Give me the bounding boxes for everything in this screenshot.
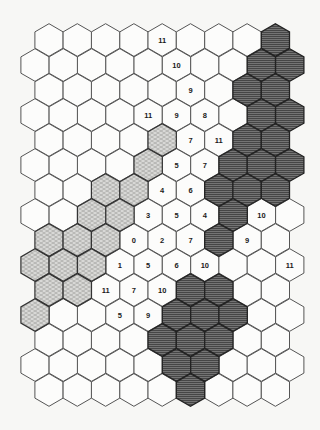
hex-number-label: 10 <box>201 261 209 270</box>
hex-number-label: 11 <box>158 36 166 45</box>
hex-number-label: 5 <box>146 261 150 270</box>
hex-number-label: 7 <box>203 161 207 170</box>
hex-number-label: 11 <box>102 286 110 295</box>
hex-number-label: 10 <box>257 211 265 220</box>
hex-number-label: 11 <box>215 136 223 145</box>
hex-number-label: 11 <box>144 111 152 120</box>
hex-number-label: 9 <box>146 311 150 320</box>
hex-number-label: 8 <box>203 111 207 120</box>
hex-number-label: 0 <box>132 236 136 245</box>
hex-number-label: 1 <box>118 261 122 270</box>
hex-number-label: 7 <box>188 236 192 245</box>
hex-number-label: 7 <box>132 286 136 295</box>
hex-number-label: 6 <box>188 186 192 195</box>
hex-grid-board: 111091198711574635410027915610111171059 <box>0 0 320 430</box>
hex-number-label: 11 <box>286 261 294 270</box>
hex-number-label: 3 <box>146 211 150 220</box>
hex-number-label: 6 <box>174 261 178 270</box>
hex-number-label: 5 <box>118 311 122 320</box>
hex-number-label: 9 <box>174 111 178 120</box>
hex-number-label: 2 <box>160 236 164 245</box>
hex-number-label: 7 <box>188 136 192 145</box>
hex-number-label: 10 <box>158 286 166 295</box>
hex-number-label: 5 <box>174 211 178 220</box>
hex-number-label: 10 <box>172 61 180 70</box>
hex-number-label: 9 <box>188 86 192 95</box>
hex-number-label: 9 <box>245 236 249 245</box>
hex-number-label: 5 <box>174 161 178 170</box>
